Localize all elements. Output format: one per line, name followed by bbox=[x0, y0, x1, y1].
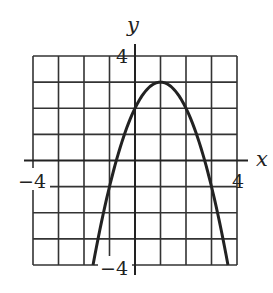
x-axis-label: x bbox=[256, 147, 268, 171]
y-min-tick-label: −4 bbox=[100, 257, 128, 279]
y-axis-label: y bbox=[126, 13, 140, 37]
x-min-tick-label: −4 bbox=[18, 170, 46, 192]
y-max-tick-label: 4 bbox=[116, 45, 128, 67]
x-max-tick-label: 4 bbox=[232, 170, 244, 192]
axes bbox=[24, 44, 248, 275]
parabola-graph: y x 4 −4 4 −4 bbox=[0, 0, 273, 293]
